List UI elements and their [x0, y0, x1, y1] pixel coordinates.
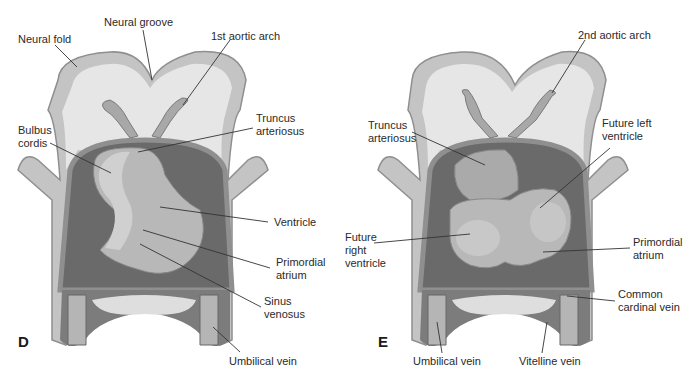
- label-1st-aortic-arch: 1st aortic arch: [211, 30, 280, 43]
- embryo-heart-diagram: [0, 0, 695, 378]
- label-ventricle: Ventricle: [274, 216, 316, 229]
- panel-d-floor: [92, 295, 196, 315]
- label-sinus-venosus: Sinus venosus: [264, 295, 305, 321]
- label-d-truncus-arteriosus: Truncus arteriosus: [256, 112, 304, 138]
- label-future-left-ventricle: Future left ventricle: [602, 117, 652, 143]
- panel-e-right-ventricle-highlight: [456, 220, 500, 256]
- label-2nd-aortic-arch: 2nd aortic arch: [578, 29, 651, 42]
- label-d-umbilical-vein: Umbilical vein: [229, 355, 297, 368]
- panel-letter-e: E: [378, 333, 388, 350]
- label-e-umbilical-vein: Umbilical vein: [413, 355, 481, 368]
- label-common-cardinal-vein: Common cardinal vein: [618, 288, 680, 314]
- label-neural-groove: Neural groove: [104, 16, 173, 29]
- panel-letter-d: D: [18, 333, 29, 350]
- leader-vitelline: [542, 322, 547, 353]
- panel-d-illustration: [18, 52, 268, 346]
- panel-d-umbilical-vein-left: [68, 295, 86, 345]
- label-e-truncus-arteriosus: Truncus arteriosus: [368, 119, 416, 145]
- panel-d-umbilical-vein-right: [200, 295, 218, 345]
- label-d-primordial-atrium: Primordial atrium: [276, 256, 326, 282]
- label-bulbus-cordis: Bulbus cordis: [18, 124, 52, 150]
- panel-e-floor: [452, 295, 556, 315]
- panel-e-vein-left: [428, 295, 446, 345]
- label-e-primordial-atrium: Primordial atrium: [633, 236, 683, 262]
- label-vitelline-vein: Vitelline vein: [519, 355, 581, 368]
- panel-e-truncus: [455, 150, 519, 201]
- panel-e-vein-right: [560, 295, 578, 345]
- panel-e-left-ventricle-highlight: [530, 202, 566, 242]
- panel-e-illustration: [378, 52, 628, 346]
- label-neural-fold: Neural fold: [18, 33, 71, 46]
- label-future-right-ventricle: Future right ventricle: [345, 231, 386, 270]
